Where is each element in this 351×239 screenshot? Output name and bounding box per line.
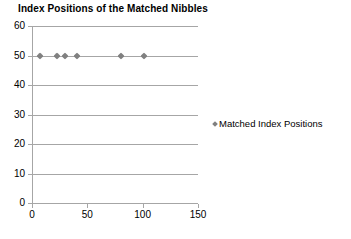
data-point-marker[interactable]	[62, 52, 69, 59]
y-axis-tick-label: 20	[1, 138, 25, 149]
data-point-marker[interactable]	[140, 52, 147, 59]
y-axis-tick-label: 30	[1, 109, 25, 120]
y-axis-tick-label: 10	[1, 168, 25, 179]
y-axis-tick-label: 40	[1, 79, 25, 90]
chart-legend: Matched Index Positions	[213, 118, 323, 129]
y-axis-tick-label: 50	[1, 50, 25, 61]
gridline-horizontal	[32, 115, 198, 116]
y-tick-mark	[28, 56, 32, 57]
x-axis-tick-label: 100	[128, 209, 158, 220]
data-point-marker[interactable]	[36, 52, 43, 59]
y-axis-tick-label: 60	[1, 20, 25, 31]
gridline-horizontal	[32, 26, 198, 27]
data-point-marker[interactable]	[117, 52, 124, 59]
y-tick-mark	[28, 115, 32, 116]
gridline-horizontal	[32, 85, 198, 86]
x-axis-tick-label: 0	[17, 209, 47, 220]
chart-container: Index Positions of the Matched Nibbles 0…	[0, 0, 351, 239]
gridline-horizontal	[32, 144, 198, 145]
x-tick-mark	[143, 204, 144, 208]
y-axis-tick-label: 0	[1, 197, 25, 208]
x-axis-tick-label: 150	[183, 209, 213, 220]
x-tick-mark	[32, 204, 33, 208]
y-tick-mark	[28, 144, 32, 145]
x-axis-tick-label: 50	[72, 209, 102, 220]
chart-title: Index Positions of the Matched Nibbles	[18, 3, 208, 14]
diamond-marker-icon	[212, 121, 218, 127]
x-tick-mark	[87, 204, 88, 208]
x-tick-mark	[198, 204, 199, 208]
gridline-horizontal	[32, 174, 198, 175]
plot-area	[32, 26, 198, 203]
data-point-marker[interactable]	[74, 52, 81, 59]
y-tick-mark	[28, 174, 32, 175]
legend-entry-label: Matched Index Positions	[219, 118, 323, 129]
y-tick-mark	[28, 85, 32, 86]
gridline-horizontal	[32, 203, 198, 204]
data-point-marker[interactable]	[54, 52, 61, 59]
y-tick-mark	[28, 26, 32, 27]
